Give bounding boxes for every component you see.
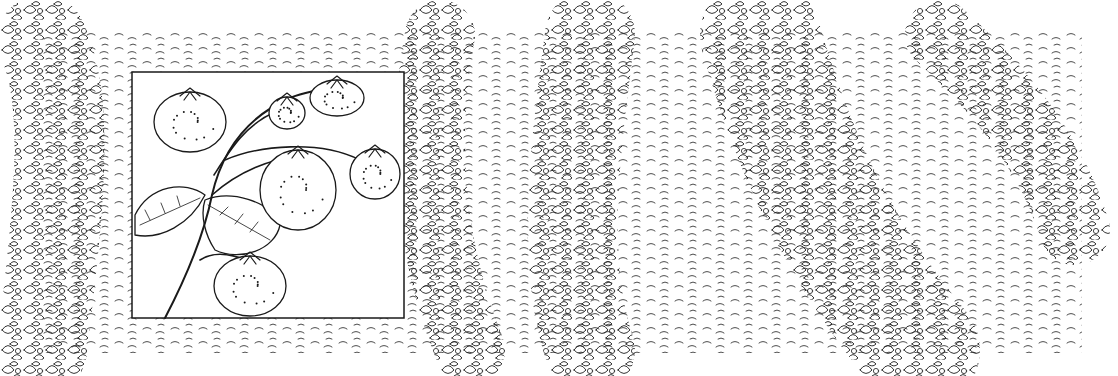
row-third bbox=[573, 35, 590, 350]
inset-plant-panel bbox=[132, 72, 404, 318]
row-second bbox=[430, 35, 470, 350]
row-left bbox=[42, 40, 59, 350]
strawberry-field-illustration bbox=[0, 0, 1118, 376]
